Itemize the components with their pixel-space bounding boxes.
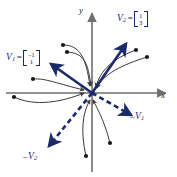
vector-v2-equals: =	[128, 13, 133, 23]
vector-v2-arrow	[92, 44, 126, 93]
vector-v1-component-1: 1	[30, 58, 33, 65]
point-marker	[65, 50, 69, 54]
trajectory-curve	[97, 57, 147, 88]
vector-v1-column: –11	[23, 50, 40, 66]
point-marker	[145, 55, 149, 59]
vector-neg-v1-arrow	[92, 93, 131, 115]
vector-v1-subscript: 1	[12, 55, 15, 62]
trajectory-curve	[96, 50, 136, 87]
trajectory-curve	[14, 93, 84, 103]
bracket-right	[36, 50, 40, 66]
trajectory-curve	[93, 100, 110, 143]
point-marker	[108, 141, 112, 145]
vector-neg-v1-label: –V1	[130, 112, 144, 122]
vector-neg-v1-minus: –	[130, 111, 135, 121]
vector-v2-label: V2=13	[117, 11, 148, 27]
vector-neg-v2-name: V	[28, 151, 34, 161]
trajectory-curve	[83, 100, 90, 156]
vector-neg-v1-name: V	[135, 111, 141, 121]
axis-lines	[6, 13, 166, 172]
vector-v2-subscript: 2	[123, 16, 126, 23]
point-marker	[61, 43, 65, 47]
x-axis-label: x	[161, 91, 165, 100]
eigenvector-arrows	[49, 44, 131, 146]
bracket-right	[144, 11, 148, 27]
point-marker	[12, 95, 16, 99]
vector-v1-label: V1=–11	[6, 50, 40, 66]
vector-v2-column: 13	[134, 11, 148, 27]
vector-v2-name: V	[117, 13, 123, 23]
trajectory-curve	[67, 52, 91, 86]
point-marker	[31, 77, 35, 81]
vector-v1-component-0: –1	[28, 51, 35, 58]
vector-v1-equals: =	[17, 52, 22, 62]
vector-neg-v1-subscript: 1	[141, 114, 144, 121]
y-axis-label: y	[79, 6, 83, 15]
vector-neg-v2-label: –V2	[23, 152, 37, 162]
vector-v1-name: V	[6, 52, 12, 62]
vector-v2-component-0: 1	[139, 12, 142, 19]
vector-neg-v2-minus: –	[23, 151, 28, 161]
vector-v2-component-1: 3	[139, 19, 142, 26]
vector-v1-arrow	[51, 64, 92, 93]
origin-marker	[90, 91, 94, 95]
vector-neg-v2-subscript: 2	[34, 154, 37, 161]
figure-canvas: V1=–11 V2=13 –V1 –V2 x y	[0, 0, 177, 177]
point-marker	[84, 154, 88, 158]
point-marker	[134, 48, 138, 52]
